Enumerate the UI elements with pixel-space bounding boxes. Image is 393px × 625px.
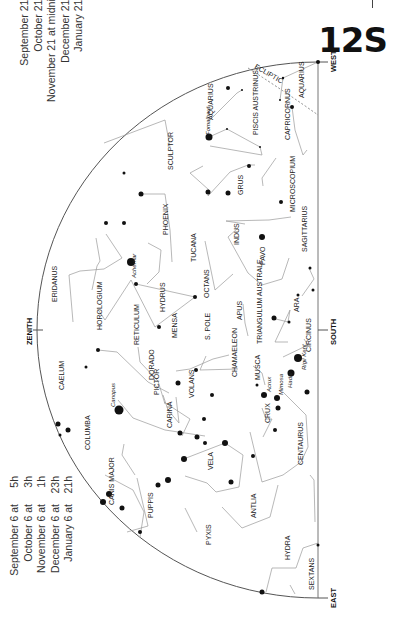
svg-text:CAELUM: CAELUM: [58, 361, 65, 390]
svg-text:SEXTANS: SEXTANS: [308, 558, 315, 590]
svg-text:MENSA: MENSA: [171, 313, 178, 338]
svg-text:ANTLIA: ANTLIA: [250, 493, 257, 518]
svg-text:SAGITTARIUS: SAGITTARIUS: [301, 206, 308, 252]
svg-text:CENTAURUS: CENTAURUS: [297, 422, 304, 465]
svg-text:RETICULUM: RETICULUM: [133, 304, 140, 345]
svg-text:PISCIS AUSTRINUS: PISCIS AUSTRINUS: [252, 70, 259, 135]
svg-text:PYXIS: PYXIS: [205, 524, 212, 545]
svg-text:ERIDANUS: ERIDANUS: [51, 265, 58, 302]
svg-text:COLUMBA: COLUMBA: [84, 415, 91, 450]
svg-text:AQUARIUS: AQUARIUS: [298, 61, 306, 98]
svg-text:MICROSCOPIUM: MICROSCOPIUM: [289, 156, 296, 212]
svg-text:HYDRA: HYDRA: [284, 535, 291, 560]
triangulum-label: TRIANGULUM AUSTRALE: [256, 259, 263, 344]
south-pole-label: S. POLE: [204, 312, 211, 340]
svg-text:MUSCA: MUSCA: [254, 354, 261, 380]
svg-text:CHAMAELEON: CHAMAELEON: [231, 328, 238, 377]
svg-text:CARINA: CARINA: [166, 401, 173, 428]
svg-text:HOROLOGIUM: HOROLOGIUM: [96, 281, 103, 330]
svg-text:Rigil Kent: Rigil Kent: [301, 344, 307, 370]
svg-text:GRUS: GRUS: [237, 174, 244, 195]
svg-text:APUS: APUS: [236, 301, 243, 320]
svg-text:CRUX: CRUX: [264, 403, 271, 423]
svg-text:TUCANA: TUCANA: [190, 233, 197, 262]
svg-text:Acrux: Acrux: [266, 376, 272, 393]
svg-text:VELA: VELA: [207, 452, 214, 470]
svg-text:HYDRUS: HYDRUS: [159, 282, 166, 312]
east-label: EAST: [329, 588, 338, 608]
west-label: WEST: [329, 50, 338, 72]
svg-text:OCTANS: OCTANS: [203, 269, 210, 298]
svg-text:Fomalhaut: Fomalhaut: [205, 106, 211, 135]
svg-text:VOLANS: VOLANS: [188, 369, 195, 398]
svg-text:Achernar: Achernar: [131, 253, 137, 279]
svg-text:ARA: ARA: [293, 297, 300, 312]
svg-text:Hadar: Hadar: [287, 371, 293, 388]
svg-text:Mimosa: Mimosa: [278, 373, 284, 395]
svg-text:CAPRICORNUS: CAPRICORNUS: [284, 88, 291, 140]
svg-text:PHOENIX: PHOENIX: [162, 203, 169, 235]
svg-text:PICTOR: PICTOR: [153, 369, 160, 395]
svg-text:Canopus: Canopus: [110, 383, 116, 407]
south-label: SOUTH: [329, 319, 338, 345]
svg-text:PUPPIS: PUPPIS: [147, 492, 154, 518]
svg-text:CANIS MAJOR: CANIS MAJOR: [108, 457, 115, 505]
constellation-labels: AQUARIUS AQUARIUS PISCIS AUSTRINUS CAPRI…: [51, 61, 315, 590]
svg-text:INDUS: INDUS: [233, 223, 240, 245]
svg-text:SCULPTOR: SCULPTOR: [167, 132, 174, 170]
star-chart: WEST SOUTH EAST ZENITH S. POLE ECLIPTIC: [0, 0, 393, 625]
zenith-label: ZENITH: [25, 318, 34, 345]
constellation-lines: [69, 62, 318, 594]
